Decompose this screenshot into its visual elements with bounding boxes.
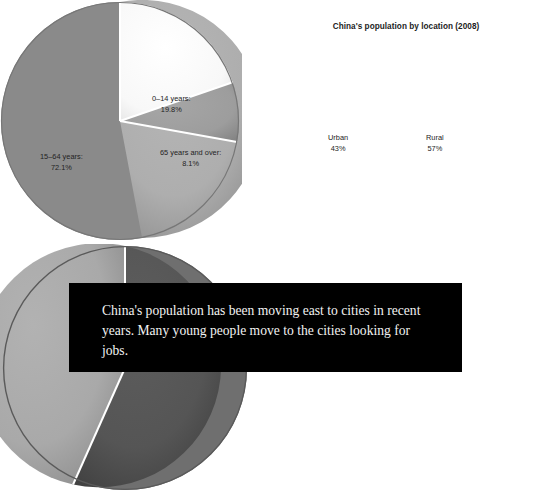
pie-label-15-64-years: 15–64 years: 72.1% [40, 152, 83, 173]
pie-label-0-14-years-name: 0–14 years: [152, 94, 191, 103]
pie-label-65-and-over-value: 8.1% [160, 159, 221, 170]
chart-title-location: China's population by location (2008) [292, 22, 520, 31]
pie-label-rural: Rural 57% [426, 133, 444, 154]
pie-label-urban-value: 43% [328, 144, 348, 155]
pie-label-rural-name: Rural [426, 133, 444, 142]
caption-box: China's population has been moving east … [69, 283, 462, 372]
pie-label-rural-value: 57% [426, 144, 444, 155]
pie-age-svg [0, 0, 242, 244]
pie-label-65-and-over: 65 years and over: 8.1% [160, 148, 221, 169]
pie-label-0-14-years-value: 19.8% [152, 105, 191, 116]
pie-label-15-64-years-name: 15–64 years: [40, 152, 83, 161]
pie-chart-age [0, 0, 242, 244]
pie-label-0-14-years: 0–14 years: 19.8% [152, 94, 191, 115]
pie-label-urban-name: Urban [328, 133, 348, 142]
pie-label-65-and-over-name: 65 years and over: [160, 148, 221, 157]
caption-text: China's population has been moving east … [102, 301, 432, 361]
pie-label-urban: Urban 43% [328, 133, 348, 154]
pie-label-15-64-years-value: 72.1% [40, 163, 83, 174]
